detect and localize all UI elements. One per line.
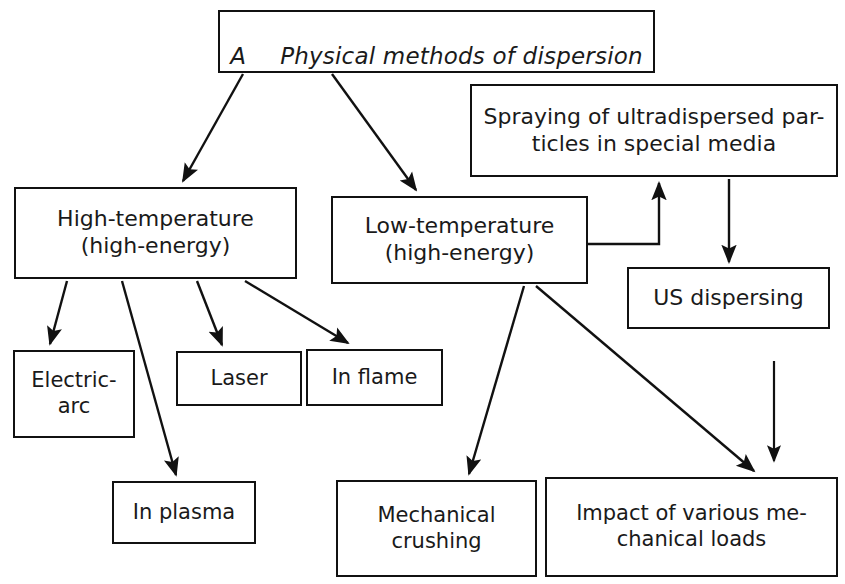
node-electric-arc-label: Electric- arc: [25, 368, 122, 419]
node-root-title: Physical methods of dispersion: [280, 43, 643, 69]
edge-low-temperature-to-mechanical-crushing: [469, 286, 524, 474]
node-in-flame[interactable]: In flame: [306, 349, 443, 406]
edge-high-temperature-to-laser: [197, 281, 222, 345]
node-in-flame-label: In flame: [326, 365, 424, 391]
edge-root-to-low-temperature: [332, 74, 416, 190]
node-electric-arc[interactable]: Electric- arc: [13, 350, 135, 438]
diagram-canvas: APhysical methods of dispersion Spraying…: [0, 0, 845, 584]
node-low-temperature[interactable]: Low-temperature (high-energy): [331, 196, 588, 284]
node-low-temperature-label: Low-temperature (high-energy): [359, 213, 561, 267]
edge-high-temperature-to-electric-arc: [50, 281, 67, 344]
node-mechanical-crushing[interactable]: Mechanical crushing: [336, 480, 537, 577]
node-in-plasma[interactable]: In plasma: [112, 481, 256, 544]
node-spraying-ultradispersed-particles[interactable]: Spraying of ultradispersed par- ticles i…: [470, 84, 838, 177]
node-laser-label: Laser: [204, 366, 273, 392]
node-high-temperature[interactable]: High-temperature (high-energy): [14, 187, 297, 279]
edge-high-temperature-to-in-flame: [245, 281, 348, 343]
edge-low-temperature-to-spraying: [588, 183, 659, 244]
node-root-label: APhysical methods of dispersion: [224, 13, 649, 69]
node-spraying-label: Spraying of ultradispersed par- ticles i…: [478, 104, 831, 158]
node-mechanical-crushing-label: Mechanical crushing: [371, 503, 501, 554]
node-us-dispersing[interactable]: US dispersing: [627, 267, 830, 329]
edge-root-to-high-temperature: [183, 74, 243, 181]
node-in-plasma-label: In plasma: [127, 500, 241, 526]
node-root-letter: A: [230, 43, 246, 69]
node-root-physical-methods[interactable]: APhysical methods of dispersion: [218, 10, 655, 73]
node-laser[interactable]: Laser: [176, 351, 302, 406]
node-high-temperature-label: High-temperature (high-energy): [51, 206, 260, 260]
node-us-dispersing-label: US dispersing: [647, 285, 810, 312]
node-impact-loads-label: Impact of various me- chanical loads: [570, 501, 813, 552]
node-impact-of-mechanical-loads[interactable]: Impact of various me- chanical loads: [545, 477, 838, 577]
